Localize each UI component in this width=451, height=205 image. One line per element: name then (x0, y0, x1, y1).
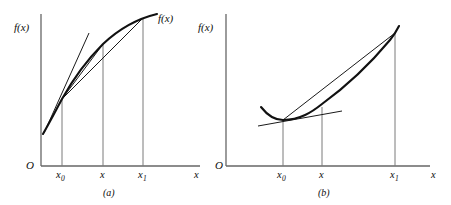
origin-label: O (215, 160, 223, 171)
tick-label-x0: x0 (277, 170, 285, 181)
x-axis-label: x (431, 170, 436, 181)
tick-base-x0: x (56, 169, 61, 180)
tick-sub-x1: 1 (395, 174, 399, 183)
panel-a-graphics (0, 0, 226, 205)
panel-caption-a: (a) (103, 188, 115, 198)
tick-base-x0: x (277, 169, 282, 180)
tangent-line-at-x0 (258, 111, 342, 126)
tick-label-x1: x1 (390, 170, 398, 181)
panel-a: f(x) f(x) O x0 x x1 x (a) (0, 0, 226, 205)
tick-label-x0: x0 (56, 170, 64, 181)
curve-label: f(x) (158, 13, 173, 24)
y-axis-label: f(x) (14, 22, 29, 33)
tick-base-x1: x (138, 169, 143, 180)
tick-sub-x0: 0 (61, 174, 65, 183)
function-curve (43, 14, 157, 134)
tick-base-x: x (319, 169, 324, 180)
tick-label-x1: x1 (138, 170, 146, 181)
panel-caption-b: (b) (318, 188, 330, 198)
tick-sub-x1: 1 (143, 174, 147, 183)
chord-x0-to-x (62, 44, 103, 99)
tick-label-x: x (319, 170, 324, 181)
tick-base-x1: x (390, 169, 395, 180)
panel-b-graphics (225, 0, 451, 205)
tick-label-x: x (100, 170, 105, 181)
origin-label: O (26, 160, 34, 171)
panel-b: f(x) O x0 x x1 x (b) (225, 0, 451, 205)
y-axis-label: f(x) (198, 22, 213, 33)
chord-x0-to-x1 (283, 33, 395, 120)
function-curve (261, 26, 399, 120)
x-axis-label: x (194, 170, 199, 181)
tick-base-x: x (100, 169, 105, 180)
tick-sub-x0: 0 (282, 174, 286, 183)
figure-root: f(x) f(x) O x0 x x1 x (a) f(x) O (0, 0, 451, 205)
